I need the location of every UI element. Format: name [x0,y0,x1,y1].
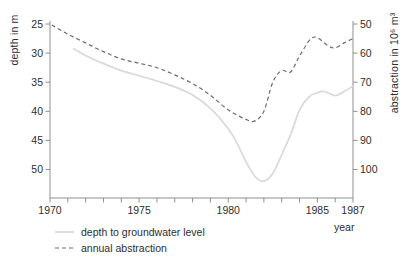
svg-text:1985: 1985 [306,204,330,216]
legend-line-solid-icon [55,229,74,235]
svg-text:25: 25 [31,18,43,30]
svg-text:1970: 1970 [38,204,62,216]
groundwater-chart: 2530354045505060708090100197019751980198… [0,0,410,263]
legend: depth to groundwater level annual abstra… [55,224,205,256]
svg-text:70: 70 [360,76,372,88]
x-axis-title: year [334,221,354,233]
left-axis-title: depth in m [8,14,20,65]
y-axis-right: 5060708090100 [353,18,378,176]
right-axis-title: abstraction in 10⁶ m³ [388,13,400,114]
svg-text:1980: 1980 [217,204,241,216]
svg-text:90: 90 [360,134,372,146]
svg-text:50: 50 [31,163,43,175]
legend-item-abstraction: annual abstraction [55,240,205,256]
svg-text:30: 30 [31,47,43,59]
x-axis: 19701975198019851987 [38,198,365,216]
svg-text:35: 35 [31,76,43,88]
legend-item-depth: depth to groundwater level [55,224,205,240]
abstraction-line [52,25,353,122]
svg-text:100: 100 [360,163,378,175]
svg-text:40: 40 [31,105,43,117]
svg-text:1987: 1987 [341,204,365,216]
svg-text:1975: 1975 [127,204,151,216]
svg-text:45: 45 [31,134,43,146]
legend-label-depth: depth to groundwater level [81,226,205,238]
svg-text:50: 50 [360,18,372,30]
svg-text:60: 60 [360,47,372,59]
svg-text:80: 80 [360,105,372,117]
legend-label-abstraction: annual abstraction [81,242,167,254]
y-axis-left: 253035404550 [31,18,50,176]
depth-line [73,48,353,181]
legend-line-dashed-icon [55,245,74,251]
